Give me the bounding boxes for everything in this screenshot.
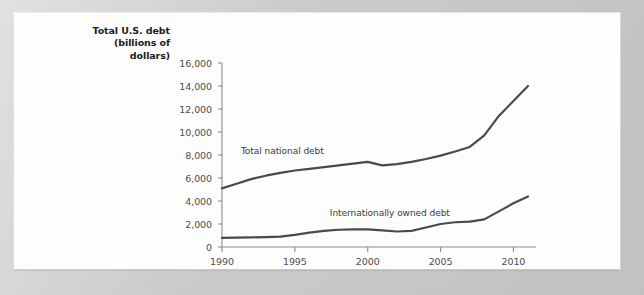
series-line-total-national-debt <box>222 86 528 188</box>
line-chart: Total U.S. debt (billions of dollars) 02… <box>14 13 620 269</box>
plot-area <box>14 13 620 269</box>
series-label-internationally-owned-debt: Internationally owned debt <box>330 208 450 218</box>
axis-ticks <box>218 63 513 252</box>
chart-card: Total U.S. debt (billions of dollars) 02… <box>14 13 620 269</box>
series-label-total-national-debt: Total national debt <box>241 146 324 156</box>
